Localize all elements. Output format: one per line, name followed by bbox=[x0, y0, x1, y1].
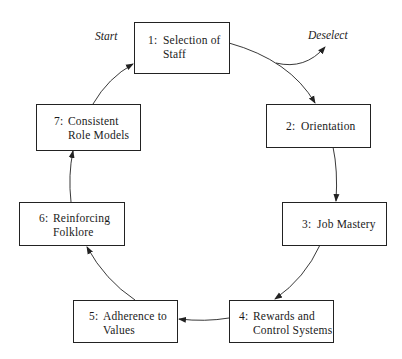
node-label-line2: Values bbox=[103, 323, 135, 337]
arrow-6-to-7 bbox=[70, 151, 73, 202]
node-number: 4: bbox=[239, 309, 248, 323]
node-label-line1: Orientation bbox=[301, 119, 356, 133]
arrow-1-to-2 bbox=[229, 43, 315, 103]
node-label-line2: Role Models bbox=[68, 128, 129, 142]
deselect-label: Deselect bbox=[308, 29, 348, 41]
node-orientation[interactable]: 2: Orientation bbox=[266, 104, 371, 148]
node-number: 7: bbox=[54, 114, 63, 128]
node-job-mastery[interactable]: 3: Job Mastery bbox=[282, 202, 387, 246]
node-label-line2: Folklore bbox=[53, 225, 94, 239]
node-consistent-role-models[interactable]: 7: Consistent Role Models bbox=[36, 104, 141, 151]
arrow-4-to-5 bbox=[179, 318, 229, 320]
node-label-line1: Adherence to bbox=[103, 309, 167, 323]
node-number: 5: bbox=[89, 309, 98, 323]
node-label-line1: Reinforcing bbox=[53, 211, 110, 225]
node-label-line2: Staff bbox=[163, 47, 186, 61]
node-selection-of-staff[interactable]: 1: Selection of Staff bbox=[134, 22, 230, 74]
node-rewards-and-control-systems[interactable]: 4: Rewards and Control Systems bbox=[229, 300, 334, 343]
start-label: Start bbox=[95, 30, 117, 42]
arrow-2-to-3 bbox=[333, 147, 337, 201]
node-number: 1: bbox=[148, 33, 157, 47]
arrow-deselect-branch bbox=[276, 47, 325, 65]
node-adherence-to-values[interactable]: 5: Adherence to Values bbox=[73, 300, 178, 343]
node-reinforcing-folklore[interactable]: 6: Reinforcing Folklore bbox=[19, 202, 125, 246]
node-label-line1: Consistent bbox=[68, 114, 119, 128]
node-number: 3: bbox=[302, 217, 311, 231]
node-number: 2: bbox=[286, 119, 295, 133]
node-label-line1: Job Mastery bbox=[317, 217, 376, 231]
node-label-line1: Rewards and bbox=[253, 309, 315, 323]
diagram-canvas: Start Deselect 1: Selection of Staff 2: … bbox=[0, 0, 402, 359]
node-number: 6: bbox=[39, 211, 48, 225]
arrow-5-to-6 bbox=[87, 247, 135, 300]
arrow-7-to-1 bbox=[93, 64, 133, 104]
node-label-line1: Selection of bbox=[163, 33, 221, 47]
arrow-3-to-4 bbox=[275, 245, 320, 299]
node-label-line2: Control Systems bbox=[253, 323, 332, 337]
